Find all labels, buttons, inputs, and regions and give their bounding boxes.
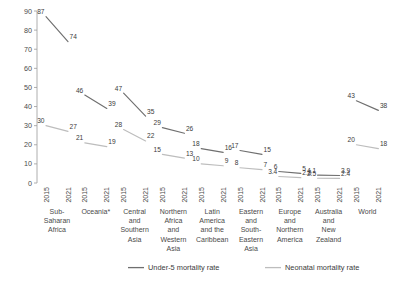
x-axis-category-label: Zealand [316,236,341,243]
series-segment-neonatal [201,164,223,166]
data-point-label: 43 [348,92,356,99]
data-point-label: 39 [108,100,116,107]
series-segment-under5 [85,95,107,108]
x-axis-category-label: and [323,217,335,224]
mortality-line-chart: 0102030405060708090 87744639473529261816… [0,0,393,281]
x-tick-year-label: 2021 [375,187,382,203]
x-tick-year-label: 2021 [142,187,149,203]
data-point-label: 47 [115,85,123,92]
y-tick-label: 0 [28,179,32,188]
x-tick-year-label: 2015 [81,187,88,203]
series-segment-neonatal [85,143,107,147]
x-axis-category-label: America [199,217,225,224]
x-axis-category-label: Eastern [239,208,263,215]
data-point-label: 8 [235,159,239,166]
x-axis-category-label: Africa [164,217,182,224]
data-point-label: 46 [76,87,84,94]
x-axis-category-label: and the [201,226,224,233]
data-point-label: 87 [37,8,45,15]
x-axis-year-labels: 2015202120152021201520212015202120152021… [43,187,382,203]
data-point-label: 29 [154,119,162,126]
data-point-label: 18 [380,140,388,147]
series-segment-under5 [356,101,378,111]
x-axis-category-label: South- [241,226,262,233]
data-point-label: 38 [380,102,388,109]
data-point-label: 19 [108,138,116,145]
x-axis-category-label: Asia [128,236,142,243]
x-tick-year-label: 2021 [181,187,188,203]
data-point-label: 27 [70,123,78,130]
data-point-label: 17 [231,142,239,149]
y-tick-label: 60 [24,64,32,73]
data-point-label: 22 [147,132,155,139]
data-point-label: 26 [186,125,194,132]
x-axis-category-label: Eastern [239,236,263,243]
x-tick-year-label: 2015 [353,187,360,203]
x-tick-year-label: 2021 [259,187,266,203]
x-axis-category-labels: Sub-SaharanAfricaOceania*CentralandSouth… [44,208,377,252]
x-axis-category-label: and [168,226,180,233]
x-tick-year-label: 2015 [314,187,321,203]
data-point-label: 7 [264,161,268,168]
series-segment-neonatal [162,154,184,158]
data-point-label: 3.4 [268,168,277,175]
data-point-label: 74 [70,33,78,40]
x-tick-year-label: 2021 [103,187,110,203]
x-axis-category-label: and [284,217,296,224]
x-tick-year-label: 2021 [297,187,304,203]
data-point-label: 10 [192,155,200,162]
y-tick-label: 20 [24,140,32,149]
x-axis-category-label: Sub- [50,208,65,215]
x-axis-category-label: Australia [315,208,342,215]
x-axis-category-label: Asia [167,245,181,252]
x-tick-year-label: 2021 [220,187,227,203]
data-point-label: 2.5 [307,170,316,177]
data-point-label: 2.4 [341,170,350,177]
x-tick-year-label: 2021 [65,187,72,203]
data-point-label: 20 [348,136,356,143]
data-point-label: 21 [76,134,84,141]
series-segment-under5 [240,151,262,155]
chart-legend: Under-5 mortality rateNeonatal mortality… [128,263,359,272]
legend-label: Neonatal mortality rate [285,263,359,272]
data-point-label: 18 [192,140,200,147]
data-point-label: 30 [37,117,45,124]
x-tick-year-label: 2015 [198,187,205,203]
series-lines [46,17,378,179]
x-axis-category-label: Latin [205,208,220,215]
data-point-label: 28 [115,121,123,128]
series-segment-under5 [279,172,301,174]
x-axis-category-label: Caribbean [196,236,228,243]
x-axis-category-label: World [358,208,376,215]
x-axis-category-label: America [277,236,303,243]
y-tick-label: 80 [24,26,32,35]
x-axis-category-label: Northern [276,226,303,233]
x-axis-category-label: Africa [48,226,66,233]
x-axis-category-label: Saharan [44,217,71,224]
data-point-label: 35 [147,108,155,115]
x-axis-category-label: and [245,217,257,224]
series-segment-neonatal [124,129,146,140]
data-point-label: 9 [225,157,229,164]
series-segment-under5 [162,128,184,134]
x-tick-year-label: 2015 [237,187,244,203]
x-tick-year-label: 2015 [159,187,166,203]
x-axis-category-label: Southern [120,226,149,233]
series-segment-under5 [124,93,146,116]
series-segment-neonatal [279,177,301,178]
y-tick-label: 90 [24,7,32,16]
x-axis-category-label: New [322,226,337,233]
x-axis-category-label: Europe [279,208,302,216]
x-tick-year-label: 2021 [336,187,343,203]
y-axis: 0102030405060708090 [24,7,37,188]
y-tick-label: 30 [24,121,32,130]
chart-container: 0102030405060708090 87744639473529261816… [0,0,393,281]
series-segment-under5 [201,149,223,153]
x-axis-category-label: Northern [160,208,187,215]
y-tick-label: 40 [24,102,32,111]
y-tick-label: 50 [24,83,32,92]
legend-label: Under-5 mortality rate [148,263,219,272]
x-axis-category-label: Oceania* [81,208,110,215]
series-segment-neonatal [46,126,68,132]
series-segment-neonatal [240,168,262,170]
